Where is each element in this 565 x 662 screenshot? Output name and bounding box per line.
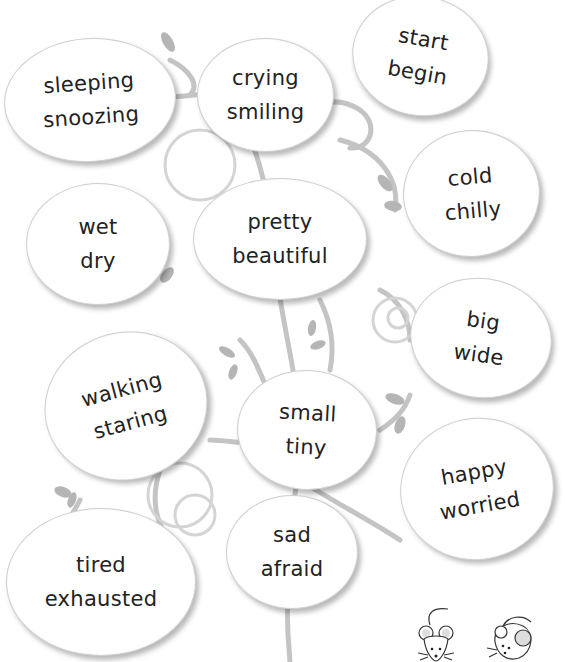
word-big: big (464, 302, 502, 340)
worksheet-canvas: sleeping snoozing crying smiling start b… (0, 0, 565, 662)
word-sad: sad (273, 518, 311, 552)
bubble-crying-smiling: crying smiling (197, 38, 334, 152)
mouse-side-icon (483, 612, 543, 662)
word-dry: dry (80, 244, 115, 278)
bubble-pretty-beautiful: pretty beautiful (193, 178, 367, 300)
bubble-wet-dry: wet dry (26, 183, 170, 305)
word-small: small (278, 395, 337, 432)
mouse-front-icon (408, 605, 468, 662)
bubble-tired-exhausted: tired exhausted (6, 508, 196, 656)
word-chilly: chilly (443, 191, 502, 230)
word-smiling: smiling (227, 95, 305, 129)
word-tired: tired (76, 548, 126, 582)
word-afraid: afraid (261, 552, 324, 586)
word-pretty: pretty (247, 205, 312, 239)
bubble-sad-afraid: sad afraid (226, 495, 358, 609)
word-crying: crying (232, 61, 299, 95)
word-snoozing: snoozing (42, 97, 140, 138)
word-beautiful: beautiful (232, 239, 328, 273)
word-cold: cold (446, 158, 494, 196)
word-wet: wet (78, 210, 117, 244)
word-wide: wide (451, 334, 506, 375)
word-tiny: tiny (285, 429, 328, 465)
word-exhausted: exhausted (45, 582, 158, 616)
